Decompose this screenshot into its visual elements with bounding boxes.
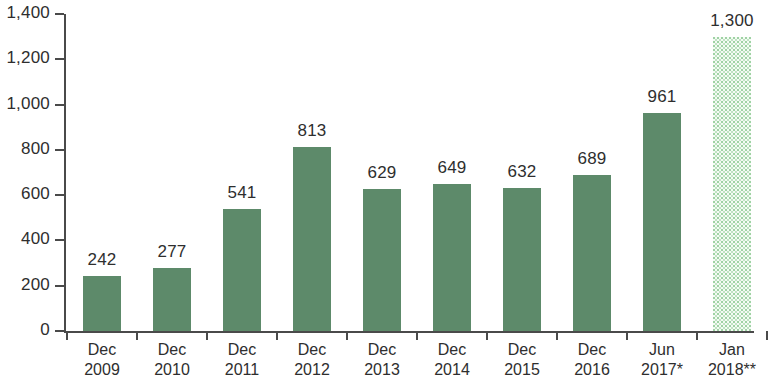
category-label-line2: 2014	[412, 360, 492, 380]
category-label-line2: 2013	[342, 360, 422, 380]
x-axis-category-label: Dec2013	[342, 340, 422, 380]
bar-value-label: 632	[482, 162, 562, 182]
x-axis-tick	[136, 331, 138, 340]
y-axis-tick-label: 1,000	[0, 94, 50, 114]
y-axis-tick	[55, 239, 64, 241]
x-axis-tick	[276, 331, 278, 340]
x-axis-tick	[346, 331, 348, 340]
y-axis-tick-label: 800	[0, 139, 50, 159]
y-axis-tick	[55, 330, 64, 332]
bar-value-label: 1,300	[692, 11, 772, 31]
bar-value-label: 541	[202, 183, 282, 203]
bar-dec-2014[interactable]	[433, 184, 471, 331]
x-axis-category-label: Dec2014	[412, 340, 492, 380]
category-label-line1: Jan	[692, 340, 772, 360]
category-label-line2: 2012	[272, 360, 352, 380]
x-axis-tick	[696, 331, 698, 340]
category-label-line2: 2018**	[692, 360, 772, 380]
category-label-line2: 2017*	[622, 360, 702, 380]
x-axis-category-label: Dec2010	[132, 340, 212, 380]
bar-dec-2011[interactable]	[223, 209, 261, 331]
bar-dec-2012[interactable]	[293, 147, 331, 331]
y-axis-tick-label: 200	[0, 275, 50, 295]
y-axis-tick-label: 400	[0, 229, 50, 249]
x-axis-category-label: Dec2016	[552, 340, 632, 380]
bar-value-label: 242	[62, 250, 142, 270]
bar-value-label: 649	[412, 158, 492, 178]
x-axis-tick	[766, 331, 768, 340]
bar-value-label: 813	[272, 121, 352, 141]
y-axis-tick-label: 1,200	[0, 48, 50, 68]
x-axis-tick	[556, 331, 558, 340]
y-axis-tick	[55, 13, 64, 15]
y-axis-tick-label: 0	[0, 320, 50, 340]
x-axis-category-label: Dec2015	[482, 340, 562, 380]
category-label-line1: Dec	[202, 340, 282, 360]
category-label-line2: 2009	[62, 360, 142, 380]
category-label-line2: 2016	[552, 360, 632, 380]
bar-value-label: 689	[552, 149, 632, 169]
y-axis-tick-label: 1,400	[0, 3, 50, 23]
x-axis-category-label: Dec2012	[272, 340, 352, 380]
category-label-line1: Dec	[132, 340, 212, 360]
category-label-line1: Dec	[342, 340, 422, 360]
bar-dec-2010[interactable]	[153, 268, 191, 331]
category-label-line2: 2010	[132, 360, 212, 380]
category-label-line2: 2011	[202, 360, 282, 380]
x-axis-tick	[626, 331, 628, 340]
bar-value-label: 629	[342, 163, 422, 183]
y-axis-tick	[55, 194, 64, 196]
category-label-line1: Dec	[552, 340, 632, 360]
x-axis-tick	[416, 331, 418, 340]
x-axis-tick	[66, 331, 68, 340]
bar-value-label: 961	[622, 87, 702, 107]
bar-jan-2018[interactable]	[713, 37, 751, 331]
x-axis-category-label: Jun2017*	[622, 340, 702, 380]
x-axis-tick	[206, 331, 208, 340]
category-label-line1: Dec	[62, 340, 142, 360]
category-label-line1: Dec	[412, 340, 492, 360]
bar-dec-2016[interactable]	[573, 175, 611, 331]
x-axis-tick	[486, 331, 488, 340]
y-axis-tick	[55, 285, 64, 287]
y-axis-tick	[55, 58, 64, 60]
y-axis-tick	[55, 149, 64, 151]
bar-dec-2015[interactable]	[503, 188, 541, 331]
category-label-line1: Dec	[272, 340, 352, 360]
x-axis-category-label: Dec2011	[202, 340, 282, 380]
y-axis-tick	[55, 104, 64, 106]
x-axis-line	[64, 331, 754, 333]
y-axis-tick-label: 600	[0, 184, 50, 204]
bar-value-label: 277	[132, 242, 212, 262]
category-label-line1: Dec	[482, 340, 562, 360]
x-axis-category-label: Dec2009	[62, 340, 142, 380]
bar-dec-2009[interactable]	[83, 276, 121, 331]
bar-jun-2017[interactable]	[643, 113, 681, 331]
category-label-line2: 2015	[482, 360, 562, 380]
category-label-line1: Jun	[622, 340, 702, 360]
x-axis-category-label: Jan2018**	[692, 340, 772, 380]
bar-dec-2013[interactable]	[363, 189, 401, 331]
